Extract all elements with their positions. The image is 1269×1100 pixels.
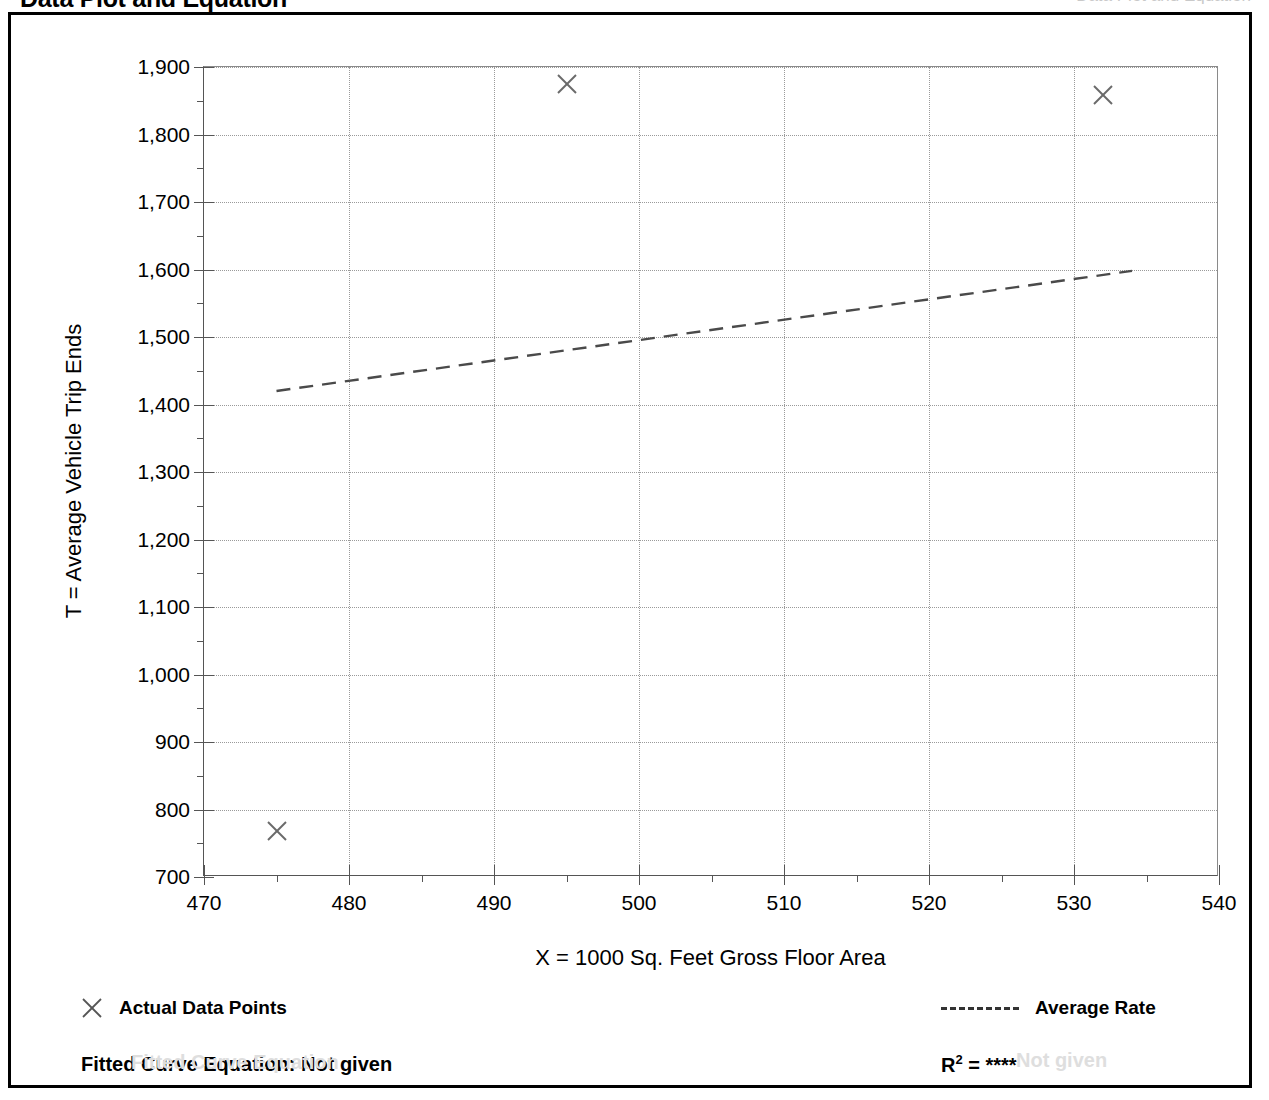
y-axis-title: T = Average Vehicle Trip Ends (59, 66, 89, 876)
y-tick-minor (197, 776, 204, 777)
y-tick-minor (197, 236, 204, 237)
y-tick-minor (197, 101, 204, 102)
x-tick-major (1219, 865, 1220, 885)
y-tick-minor (197, 708, 204, 709)
x-axis-title: X = 1000 Sq. Feet Gross Floor Area (203, 945, 1218, 971)
equation-row: Fitted Curve Equation: Not given R2 = **… (11, 1047, 1255, 1081)
y-tick-label: 1,400 (137, 393, 190, 417)
y-tick-label: 900 (155, 730, 190, 754)
y-tick-label: 700 (155, 865, 190, 889)
x-tick-label: 520 (911, 891, 946, 915)
legend-label-average-rate: Average Rate (1035, 997, 1156, 1019)
r-squared-value: = **** (968, 1053, 1016, 1075)
fitted-curve-equation-text: Fitted Curve Equation: Not given (81, 1053, 392, 1076)
y-tick-minor (197, 641, 204, 642)
y-tick-label: 1,600 (137, 258, 190, 282)
y-tick-label: 1,800 (137, 123, 190, 147)
y-tick-label: 1,700 (137, 190, 190, 214)
r-squared-label: R (941, 1053, 955, 1075)
data-point-marker (1092, 84, 1114, 106)
y-tick-minor (197, 573, 204, 574)
data-point-marker (266, 820, 288, 842)
y-tick-label: 1,200 (137, 528, 190, 552)
y-tick-label: 1,000 (137, 663, 190, 687)
x-tick-label: 490 (476, 891, 511, 915)
page-title-faint-duplicate: Data Plot and Equation (1076, 0, 1251, 6)
x-tick-label: 540 (1201, 891, 1236, 915)
y-tick-minor (197, 843, 204, 844)
x-tick-label: 510 (766, 891, 801, 915)
dashed-line-icon (941, 1007, 1019, 1010)
r-squared-text: R2 = **** (941, 1052, 1017, 1077)
y-tick-minor (197, 438, 204, 439)
x-tick-label: 530 (1056, 891, 1091, 915)
y-tick-label: 1,300 (137, 460, 190, 484)
y-tick-minor (197, 506, 204, 507)
r-squared-exponent: 2 (955, 1052, 962, 1067)
r-squared: R2 = **** (941, 1047, 1017, 1081)
y-tick-minor (197, 371, 204, 372)
y-tick-label: 1,100 (137, 595, 190, 619)
x-tick-label: 470 (186, 891, 221, 915)
legend-label-actual-data-points: Actual Data Points (119, 997, 287, 1019)
plot-area: 7008009001,0001,1001,2001,3001,4001,5001… (203, 66, 1218, 876)
x-tick-label: 500 (621, 891, 656, 915)
x-tick-label: 480 (331, 891, 366, 915)
chart-block: 7008009001,0001,1001,2001,3001,4001,5001… (11, 15, 1255, 1091)
legend-item-average-rate: Average Rate (941, 991, 1156, 1025)
legend-item-actual-data-points: Actual Data Points (81, 991, 287, 1025)
y-tick-label: 1,500 (137, 325, 190, 349)
y-tick-minor (197, 168, 204, 169)
x-marker-icon (81, 997, 103, 1019)
fitted-curve-equation: Fitted Curve Equation: Not given (81, 1047, 392, 1081)
y-tick-minor (197, 303, 204, 304)
trendline-svg (204, 67, 1219, 877)
data-point-marker (556, 73, 578, 95)
legend-row: Actual Data Points Average Rate (11, 991, 1255, 1025)
y-tick-label: 800 (155, 798, 190, 822)
y-tick-label: 1,900 (137, 55, 190, 79)
chart-frame: 7008009001,0001,1001,2001,3001,4001,5001… (8, 12, 1252, 1088)
